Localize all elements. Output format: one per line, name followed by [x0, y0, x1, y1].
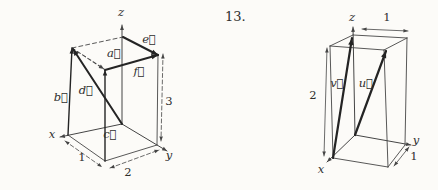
vector-box-diagrams-canvas: zxya⃗b⃗c⃗d⃗e⃗f⃗123zxyv⃗u⃗211: [0, 0, 438, 190]
dim-2-line-arrowhead: [322, 151, 326, 156]
z-axis: [353, 27, 355, 135]
dim-2-line-arrowhead: [325, 48, 329, 53]
vector-u-line-arrowhead: [381, 51, 386, 58]
dim-1-top-label: 1: [383, 10, 390, 24]
axis-label-x: x: [49, 127, 56, 141]
vector-label-d: d⃗: [79, 83, 93, 97]
x-axis: [327, 135, 355, 162]
z-axis-arrowhead: [351, 27, 355, 32]
dim-1-top-line-arrowhead: [403, 29, 408, 33]
vector-u-line: [355, 51, 386, 135]
edge-bottom-left-front: [333, 158, 388, 167]
dim-2-line: [324, 48, 327, 156]
axis-label-z: z: [348, 10, 356, 24]
vector-label-f: f⃗: [132, 64, 144, 78]
vector-e-line-arrowhead: [151, 50, 158, 55]
dim-2-line-arrowhead: [154, 150, 159, 153]
edge-bottom-front-right: [105, 145, 157, 161]
vector-label-v: v⃗: [330, 76, 343, 90]
axis-label-z: z: [117, 5, 125, 19]
vector-a-line-arrowhead: [99, 65, 104, 69]
dim-1-line-arrowhead: [97, 163, 102, 167]
edge-top-left-front: [330, 46, 384, 50]
y-axis-arrowhead: [406, 142, 411, 146]
dim-1-right-label: 1: [410, 149, 417, 163]
dim-3-label: 3: [165, 94, 172, 108]
dim-2-label: 2: [124, 165, 131, 179]
dim-1-top-line: [362, 29, 408, 31]
vector-f-line-arrowhead: [151, 54, 158, 59]
edge-top-back-right: [353, 35, 407, 38]
edge-bottom-left-front: [68, 135, 105, 161]
dim-2-line-arrowhead: [110, 165, 115, 168]
dim-1-label: 1: [78, 150, 85, 164]
dim-2-label: 2: [309, 88, 316, 102]
dim-1-line-arrowhead: [65, 141, 70, 145]
exercise-number: 13.: [225, 9, 246, 24]
edge-right-vertical: [157, 55, 158, 145]
dim-3-line-arrowhead: [159, 136, 163, 141]
vector-label-c: c⃗: [103, 127, 116, 141]
vector-label-u: u⃗: [359, 76, 373, 90]
box-1x2x3-vectors-figure: zxya⃗b⃗c⃗d⃗e⃗f⃗123: [49, 5, 173, 179]
dim-2-line: [110, 150, 159, 168]
vector-c-line-arrowhead: [103, 70, 107, 76]
z-axis-arrowhead: [120, 25, 124, 30]
edge-left-vertical: [330, 46, 333, 158]
dim-3-line-arrowhead: [161, 54, 165, 59]
vector-b-line: [68, 48, 72, 135]
vector-label-a: a⃗: [107, 46, 121, 60]
box-1x1x2-vectors-figure: zxyv⃗u⃗211: [309, 10, 419, 176]
vector-label-b: b⃗: [54, 90, 68, 104]
edge-front-vertical: [384, 50, 388, 167]
dim-1-top-line-arrowhead: [362, 27, 367, 31]
y-axis: [355, 135, 411, 145]
edge-right-vertical: [405, 38, 407, 145]
axis-label-y: y: [412, 133, 420, 147]
vector-label-e: e⃗: [142, 32, 156, 46]
edge-top-front-right: [384, 38, 407, 50]
textbook-figure-page: zxya⃗b⃗c⃗d⃗e⃗f⃗123zxyv⃗u⃗211 13.: [0, 0, 438, 190]
axis-label-x: x: [318, 162, 325, 176]
dim-3-line: [161, 54, 163, 141]
vector-a-line: [72, 48, 104, 69]
